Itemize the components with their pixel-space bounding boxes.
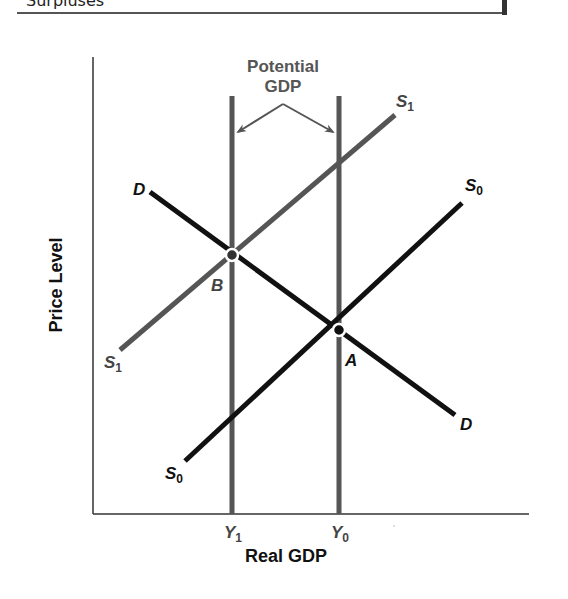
supply-curve-s0	[185, 203, 462, 461]
arrow-to-y0-icon	[283, 104, 333, 132]
arrow-to-y1-icon	[238, 104, 283, 132]
supply-curve-s1	[120, 115, 395, 350]
speck	[393, 525, 395, 527]
as-ad-diagram: Potential GDP B A D D S1 S1 S0 S0 Y1 Y0 …	[0, 0, 568, 599]
curve-label-d-bottom: D	[460, 415, 472, 434]
equilibrium-point-a	[333, 324, 345, 336]
curve-label-s0-bottom: S0	[165, 464, 183, 486]
potential-gdp-label-line2: GDP	[265, 77, 302, 96]
curve-label-s1-top: S1	[396, 92, 414, 114]
x-tick-y0: Y0	[331, 523, 349, 545]
curve-label-s1-bottom: S1	[104, 353, 122, 375]
equilibrium-point-b	[226, 249, 238, 261]
curve-label-s0-top: S0	[465, 176, 483, 198]
y-axis-title: Price Level	[46, 237, 66, 332]
point-label-a: A	[344, 351, 357, 370]
demand-curve-d	[150, 192, 455, 415]
potential-gdp-label-line1: Potential	[247, 57, 319, 76]
x-axis-title: Real GDP	[245, 546, 327, 566]
curve-label-d-top: D	[133, 180, 145, 199]
x-tick-y1: Y1	[224, 523, 242, 545]
point-label-b: B	[211, 276, 223, 295]
